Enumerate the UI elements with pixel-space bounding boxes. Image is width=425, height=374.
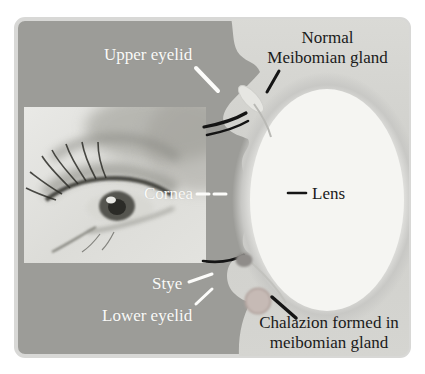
lens-shape <box>250 89 404 311</box>
stye-shape <box>236 253 253 267</box>
figure: Upper eyelid Normal Meibomian gland Corn… <box>0 0 425 374</box>
chalazion-shape <box>246 289 271 314</box>
anatomy-illustration <box>0 0 425 374</box>
